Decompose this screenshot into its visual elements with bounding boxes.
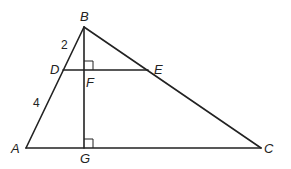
right-angle-marker-f [84,61,93,70]
measurement-bd: 2 [61,38,68,52]
right-angle-marker-g [84,139,93,148]
triangle-diagram: B A C D E F G 2 4 [0,0,291,169]
segment-ab [26,27,84,148]
label-e: E [154,62,163,77]
measurement-da: 4 [33,96,40,110]
label-b: B [80,9,89,24]
label-a: A [10,141,20,156]
segment-bc [84,27,261,148]
label-c: C [264,141,274,156]
label-f: F [86,75,95,90]
label-d: D [50,62,59,77]
label-g: G [80,151,90,166]
